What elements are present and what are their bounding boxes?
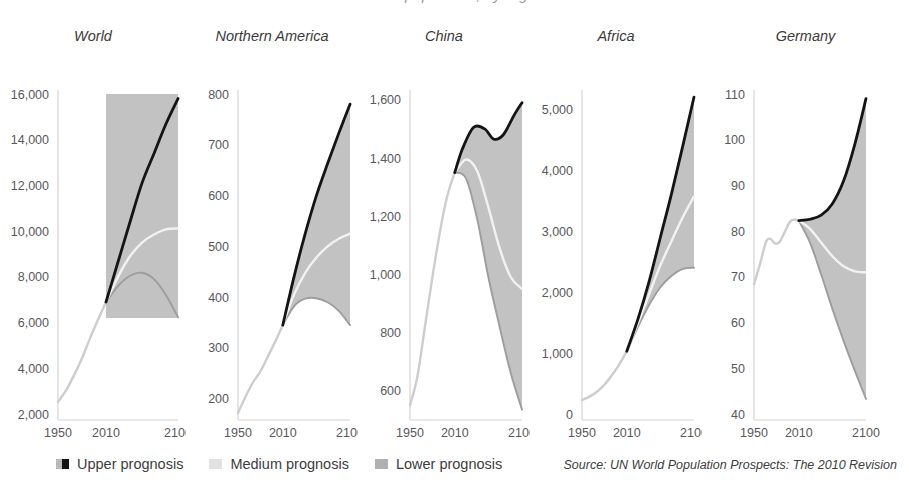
y-axis-tick-label: 4,000	[542, 164, 573, 178]
x-axis-tick-label: 1950	[396, 426, 424, 440]
x-axis-tick-label: 1950	[224, 426, 252, 440]
x-axis-tick-label: 2100	[852, 426, 880, 440]
legend-item[interactable]: Lower prognosis	[375, 456, 502, 472]
y-axis-tick-label: 1,600	[370, 93, 401, 107]
y-axis-tick-label: 70	[731, 270, 745, 284]
y-axis-tick-label: 80	[731, 225, 745, 239]
y-axis-tick-label: 600	[380, 384, 401, 398]
x-axis-tick-label: 2010	[441, 426, 469, 440]
uncertainty-band	[106, 94, 178, 318]
x-axis-tick-label: 2100	[164, 426, 186, 440]
chart-panel-china: China6008001,0001,2001,4001,600195020102…	[358, 22, 530, 440]
source-note: Source: UN World Population Prospects: T…	[564, 458, 898, 472]
y-axis-tick-label: 50	[731, 362, 745, 376]
y-axis-tick-label: 40	[731, 408, 745, 422]
y-axis-tick-label: 110	[725, 88, 745, 102]
y-axis-tick-label: 500	[208, 240, 229, 254]
legend-swatch-icon	[209, 459, 222, 469]
y-axis-tick-label: 100	[724, 133, 745, 147]
x-axis-tick-label: 2010	[785, 426, 813, 440]
y-axis-tick-label: 1,000	[542, 347, 573, 361]
y-axis-tick-label: 300	[208, 341, 229, 355]
x-axis-tick-label: 2100	[508, 426, 530, 440]
y-axis-tick-label: 0	[566, 408, 573, 422]
legend-label: Upper prognosis	[77, 456, 183, 472]
y-axis-tick-label: 700	[208, 138, 229, 152]
legend: Upper prognosisMedium prognosisLower pro…	[56, 456, 528, 472]
y-axis-tick-label: 5,000	[542, 103, 573, 117]
historical-line	[754, 220, 799, 284]
x-axis-tick-label: 2100	[680, 426, 702, 440]
historical-line	[582, 351, 627, 400]
page-title: World population, by region	[0, 0, 909, 6]
figure-footer: Upper prognosisMedium prognosisLower pro…	[0, 448, 909, 489]
x-axis-tick-label: 1950	[740, 426, 768, 440]
historical-line	[58, 302, 106, 402]
y-axis-tick-label: 800	[380, 326, 401, 340]
y-axis-tick-label: 200	[208, 392, 229, 406]
y-axis-tick-label: 2,000	[18, 408, 49, 422]
chart-panel-northern-america: Northern America200300400500600700800195…	[186, 22, 358, 440]
y-axis-tick-label: 1,400	[370, 152, 401, 166]
historical-line	[238, 325, 283, 413]
x-axis-tick-label: 2010	[613, 426, 641, 440]
chart-panel-africa: Africa01,0002,0003,0004,0005,00019502010…	[530, 22, 702, 440]
y-axis-tick-label: 8,000	[18, 270, 49, 284]
legend-item[interactable]: Medium prognosis	[209, 456, 348, 472]
y-axis-tick-label: 4,000	[18, 362, 49, 376]
legend-label: Medium prognosis	[230, 456, 348, 472]
x-axis-tick-label: 2010	[92, 426, 120, 440]
legend-swatch-icon	[375, 459, 388, 469]
y-axis-tick-label: 10,000	[11, 225, 49, 239]
y-axis-tick-label: 60	[731, 316, 745, 330]
chart-panel-world: World2,0004,0006,0008,00010,00012,00014,…	[0, 22, 186, 440]
y-axis-tick-label: 6,000	[18, 316, 49, 330]
y-axis-tick-label: 16,000	[11, 88, 49, 102]
y-axis-tick-label: 600	[208, 189, 229, 203]
y-axis-tick-label: 1,000	[370, 268, 401, 282]
uncertainty-band	[283, 104, 350, 325]
uncertainty-band	[455, 103, 522, 410]
figure-root: World population, by region World2,0004,…	[0, 0, 909, 489]
y-axis-tick-label: 12,000	[11, 179, 49, 193]
y-axis-tick-label: 90	[731, 179, 745, 193]
y-axis-tick-label: 400	[208, 291, 229, 305]
historical-line	[410, 173, 455, 406]
x-axis-tick-label: 2100	[336, 426, 358, 440]
y-axis-tick-label: 3,000	[542, 225, 573, 239]
legend-label: Lower prognosis	[396, 456, 502, 472]
y-axis-tick-label: 1,200	[370, 210, 401, 224]
y-axis-tick-label: 800	[208, 88, 229, 102]
y-axis-tick-label: 14,000	[11, 133, 49, 147]
y-axis-tick-label: 2,000	[542, 286, 573, 300]
chart-panel-germany: Germany405060708090100110195020102100	[702, 22, 909, 440]
x-axis-tick-label: 2010	[269, 426, 297, 440]
x-axis-tick-label: 1950	[44, 426, 72, 440]
legend-swatch-icon	[56, 459, 69, 469]
x-axis-tick-label: 1950	[568, 426, 596, 440]
panel-row: World2,0004,0006,0008,00010,00012,00014,…	[0, 22, 909, 440]
legend-item[interactable]: Upper prognosis	[56, 456, 183, 472]
